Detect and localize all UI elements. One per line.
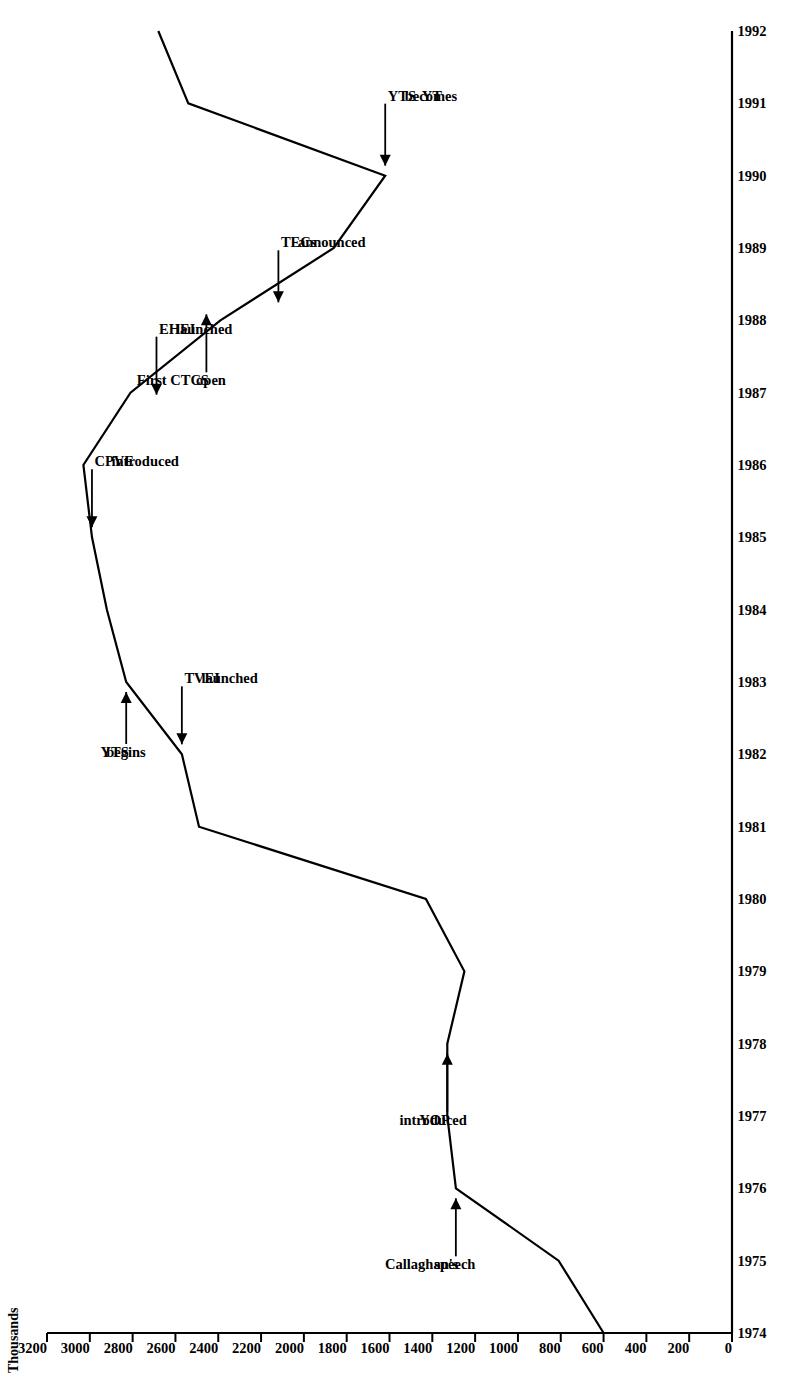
x-tick-label: 1978 — [738, 1036, 767, 1052]
x-tick-label: 1982 — [738, 746, 767, 762]
y-tick-label: 600 — [582, 1340, 604, 1356]
x-tick-label: 1977 — [738, 1108, 767, 1124]
x-tick-label: 1989 — [738, 240, 767, 256]
annotation-yts-becomes-yt: YTSbecomesYT — [380, 88, 458, 166]
annotation-label: introduced — [399, 1112, 466, 1128]
annotation-label: introduced — [112, 453, 179, 469]
y-tick-label: 3200 — [18, 1340, 47, 1356]
y-tick-label: 3000 — [61, 1340, 90, 1356]
x-tick-label: 1983 — [738, 674, 767, 690]
x-tick-label: 1992 — [738, 23, 767, 39]
x-tick-label: 1980 — [738, 891, 767, 907]
y-tick-label: 2200 — [232, 1340, 261, 1356]
y-tick-label: 1200 — [446, 1340, 475, 1356]
y-tick-label: 1000 — [489, 1340, 518, 1356]
y-tick-label: 1800 — [318, 1340, 347, 1356]
annotation-callaghans-speech: Callaghan'sspeech — [385, 1198, 475, 1272]
x-tick-label: 1988 — [738, 312, 767, 328]
y-tick-label: 800 — [539, 1340, 561, 1356]
x-tick-label: 1976 — [738, 1180, 767, 1196]
annotation-arrow-head — [450, 1198, 461, 1209]
y-tick-label: 2400 — [189, 1340, 218, 1356]
annotation-label: open — [196, 372, 226, 388]
y-tick-label: 0 — [725, 1340, 732, 1356]
annotation-tvei-launched: TVEIlaunched — [176, 670, 257, 744]
x-tick-label: 1991 — [738, 95, 767, 111]
x-tick-label: 1979 — [738, 963, 767, 979]
chart-page: Thousands 020040060080010001200140016001… — [0, 0, 792, 1381]
annotation-yts-begins: YTSbegins — [101, 692, 147, 760]
annotation-arrow-head — [273, 291, 284, 302]
x-tick-label: 1975 — [738, 1253, 767, 1269]
x-tick-label: 1984 — [738, 602, 767, 618]
annotation-label: launched — [201, 670, 257, 686]
rotated-figure-container: Thousands 020040060080010001200140016001… — [0, 0, 792, 1381]
x-tick-label: 1986 — [738, 457, 767, 473]
y-tick-label: 1400 — [403, 1340, 432, 1356]
x-tick-label: 1990 — [738, 168, 767, 184]
annotation-label: speech — [434, 1256, 475, 1272]
annotation-arrow-head — [86, 516, 97, 527]
annotation-tecs-announced: TECsannounced — [273, 234, 366, 302]
y-tick-label: 200 — [667, 1340, 689, 1356]
y-tick-label: 2800 — [104, 1340, 133, 1356]
y-tick-label: 2600 — [146, 1340, 175, 1356]
line-chart-plot: 0200400600800100012001400160018002000220… — [0, 0, 792, 1381]
x-tick-label: 1985 — [738, 529, 767, 545]
axes — [47, 31, 732, 1333]
annotation-cpve-introduced: CPVEintroduced — [86, 453, 178, 527]
x-tick-label: 1974 — [738, 1325, 767, 1341]
y-axis-ticks: 0200400600800100012001400160018002000220… — [18, 1333, 732, 1356]
annotation-label: YT — [422, 88, 442, 104]
y-tick-label: 1600 — [361, 1340, 390, 1356]
annotation-label: begins — [106, 744, 146, 760]
y-tick-label: 2000 — [275, 1340, 304, 1356]
annotation-yop-introduced: YOPintroduced — [399, 1054, 466, 1128]
x-tick-label: 1987 — [738, 385, 767, 401]
annotation-arrow-head — [176, 733, 187, 744]
x-tick-label: 1981 — [738, 819, 767, 835]
figure: Thousands 020040060080010001200140016001… — [0, 0, 792, 1381]
annotation-arrow-head — [121, 692, 132, 703]
annotation-arrow-head — [380, 155, 391, 166]
y-tick-label: 400 — [625, 1340, 647, 1356]
annotation-arrow-head — [442, 1054, 453, 1065]
data-line — [83, 31, 603, 1333]
x-axis-ticks: 1974197519761977197819791980198119821983… — [738, 23, 767, 1341]
annotation-label: announced — [298, 234, 366, 250]
